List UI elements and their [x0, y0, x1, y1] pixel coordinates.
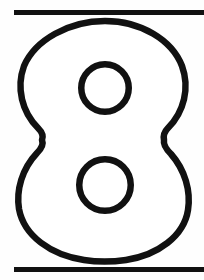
- numeral-eight-outline-figure: [0, 0, 204, 280]
- eight-outer-contour: [18, 21, 189, 262]
- bottom-rule: [14, 267, 204, 272]
- page-canvas: 8: [0, 0, 204, 280]
- lower-counter-icon: [79, 159, 131, 211]
- eight-outline-path: [18, 21, 189, 262]
- upper-counter-icon: [81, 64, 129, 112]
